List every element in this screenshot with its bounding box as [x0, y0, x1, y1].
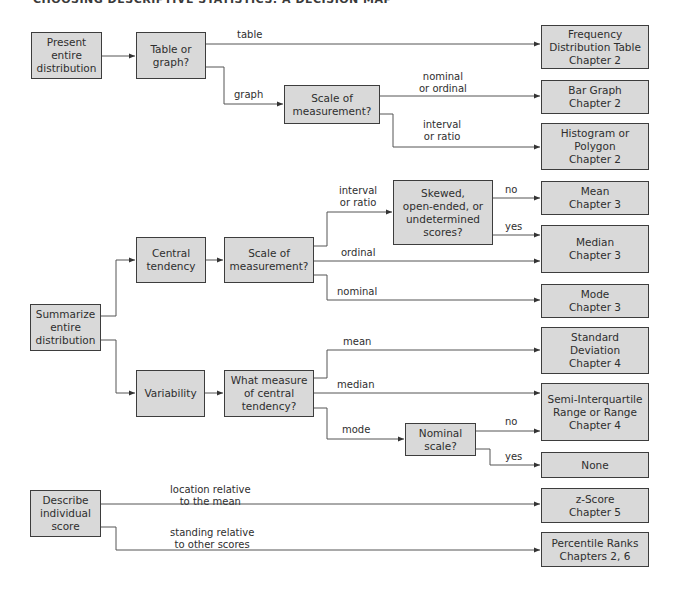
- edge-label-mean: mean: [343, 336, 371, 348]
- edge-label-ordinal: ordinal: [341, 247, 375, 259]
- edge-label-yes-none: yes: [505, 451, 522, 463]
- node-z-score: z-Score Chapter 5: [541, 488, 649, 523]
- edge-label-median: median: [337, 379, 375, 391]
- node-histogram-or-polygon: Histogram or Polygon Chapter 2: [541, 123, 649, 170]
- edge-label-location-relative: location relative to the mean: [170, 484, 251, 508]
- edge-label-interval-or-ratio-mid: interval or ratio: [339, 185, 377, 209]
- node-describe-individual-score: Describe individual score: [30, 490, 101, 537]
- node-frequency-distribution-table: Frequency Distribution Table Chapter 2: [541, 25, 649, 69]
- node-table-or-graph: Table or graph?: [136, 32, 206, 79]
- edge-label-interval-or-ratio-top: interval or ratio: [423, 119, 461, 143]
- node-none: None: [541, 452, 649, 478]
- node-median: Median Chapter 3: [541, 225, 649, 273]
- edge-label-no-semi: no: [505, 416, 517, 428]
- node-bar-graph: Bar Graph Chapter 2: [541, 80, 649, 114]
- edge-label-nominal-or-ordinal: nominal or ordinal: [419, 71, 467, 95]
- node-nominal-scale: Nominal scale?: [405, 423, 476, 456]
- node-what-measure-of-central-tendency: What measure of central tendency?: [224, 370, 314, 417]
- node-present-entire-distribution: Present entire distribution: [31, 32, 102, 79]
- edge-label-graph: graph: [234, 89, 263, 101]
- edge-label-mode: mode: [342, 424, 370, 436]
- node-scale-of-measurement-mid: Scale of measurement?: [224, 237, 314, 283]
- edge-label-yes-median: yes: [505, 221, 522, 233]
- node-standard-deviation: Standard Deviation Chapter 4: [541, 327, 649, 374]
- edge-label-standing-relative: standing relative to other scores: [170, 527, 254, 551]
- node-semi-interquartile-range: Semi-Interquartile Range or Range Chapte…: [541, 383, 649, 441]
- node-mean: Mean Chapter 3: [541, 181, 649, 215]
- edge-label-no-mean: no: [505, 184, 517, 196]
- node-variability: Variability: [136, 370, 205, 417]
- node-summarize-entire-distribution: Summarize entire distribution: [30, 304, 101, 351]
- node-scale-of-measurement-top: Scale of measurement?: [284, 85, 380, 124]
- edge-label-table: table: [237, 29, 262, 41]
- node-skewed-scores: Skewed, open-ended, or undetermined scor…: [393, 180, 493, 245]
- node-percentile-ranks: Percentile Ranks Chapters 2, 6: [541, 532, 649, 567]
- node-central-tendency: Central tendency: [136, 237, 206, 283]
- node-mode: Mode Chapter 3: [541, 284, 649, 318]
- edge-label-nominal: nominal: [337, 286, 377, 298]
